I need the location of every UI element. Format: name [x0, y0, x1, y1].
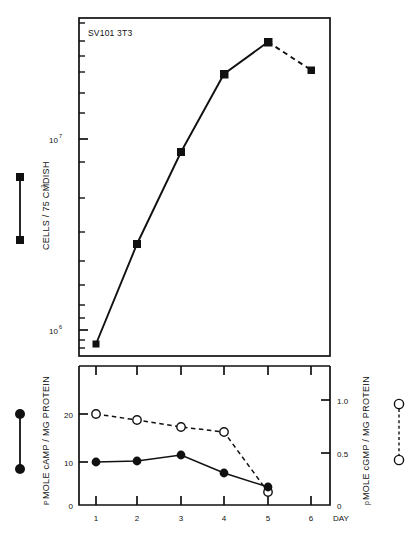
camp-point-day3: [177, 451, 186, 460]
growth-curve-solid: [96, 42, 268, 344]
nucleotide-left-axis-title-prefix: P: [43, 500, 50, 505]
nucleotide-x-tick-labels: 1 2 3 4 5 6 DAY: [94, 514, 350, 523]
growth-y-tick-label-1e6: 10: [49, 327, 58, 336]
camp-curve: [96, 455, 268, 487]
growth-panel-title: SV101 3T3: [88, 28, 132, 38]
cells-legend-marker-bottom: [16, 236, 24, 244]
camp-legend: [15, 409, 25, 474]
growth-panel-frame: [79, 18, 330, 356]
cells-legend: [16, 173, 24, 244]
nucleotide-x-ticks: [96, 366, 311, 505]
growth-y-tick-exponent-6: 6: [59, 324, 62, 330]
cells-legend-marker-top: [16, 173, 24, 181]
growth-y-major-ticks: [79, 139, 88, 330]
cgmp-point-day1: [92, 410, 100, 418]
camp-point-day5: [264, 483, 273, 492]
nucleotide-left-axis-title-group: P MOLE cAMP / MG PROTEIN: [41, 376, 51, 505]
nucleotide-panel-frame: [79, 366, 330, 505]
nucleotide-left-axis-title: MOLE cAMP / MG PROTEIN: [41, 376, 51, 499]
growth-y-tick-labels: 10 7 10 6: [49, 133, 62, 336]
nucleotide-left-tick-label-20: 20: [64, 411, 73, 420]
growth-curve-dashed: [268, 42, 311, 70]
growth-y-axis-title-tail: DISH: [41, 161, 51, 184]
nucleotide-left-tick-label-10: 10: [64, 459, 73, 468]
growth-y-tick-label-1e7: 10: [49, 136, 58, 145]
cgmp-point-day3: [177, 423, 185, 431]
x-tick-label-4: 4: [222, 514, 227, 523]
nucleotide-left-tick-labels: 20 10 0: [64, 411, 73, 511]
nucleotide-panel: 20 10 0 P MOLE cAMP / MG PROTEIN 1.0 0.5…: [15, 366, 404, 523]
cgmp-legend: [394, 399, 403, 464]
growth-point-day5: [264, 38, 273, 47]
growth-y-tick-exponent-7: 7: [59, 133, 62, 139]
camp-point-day1: [92, 458, 101, 467]
growth-data-markers: [93, 38, 316, 348]
growth-y-axis-title-superscript: 2: [40, 185, 46, 188]
x-tick-label-5: 5: [266, 514, 271, 523]
nucleotide-right-tick-label-1: 1.0: [337, 397, 349, 406]
growth-y-axis-title-group: CELLS / 75 CM 2 DISH: [40, 161, 51, 250]
cgmp-legend-marker-top: [394, 399, 403, 408]
nucleotide-right-axis-title-group: p MOLE cGMP / MG PROTEIN: [361, 376, 371, 505]
x-tick-label-3: 3: [179, 514, 184, 523]
nucleotide-left-tick-label-0: 0: [69, 502, 74, 511]
cgmp-legend-marker-bottom: [394, 455, 403, 464]
camp-point-day2: [133, 457, 142, 466]
nucleotide-right-tick-label-0: 0: [337, 502, 342, 511]
camp-legend-marker-top: [15, 409, 25, 419]
growth-point-day3: [177, 148, 185, 156]
figure-svg: SV101 3T3 10 7 10: [0, 0, 418, 540]
cgmp-point-day2: [133, 416, 141, 424]
x-tick-label-1: 1: [94, 514, 99, 523]
growth-point-day1: [93, 341, 100, 348]
nucleotide-right-axis-title-prefix: p: [363, 501, 371, 505]
growth-y-axis-title: CELLS / 75 CM: [41, 184, 51, 250]
nucleotide-right-tick-label-05: 0.5: [337, 450, 349, 459]
growth-panel: SV101 3T3 10 7 10: [16, 18, 330, 356]
camp-legend-marker-bottom: [15, 464, 25, 474]
camp-point-day4: [220, 469, 229, 478]
x-axis-label: DAY: [333, 514, 350, 523]
nucleotide-left-ticks: [79, 414, 88, 462]
growth-point-day2: [133, 240, 141, 248]
x-tick-label-2: 2: [135, 514, 140, 523]
growth-point-day4: [220, 70, 229, 79]
figure-container: SV101 3T3 10 7 10: [0, 0, 418, 540]
camp-data-markers: [92, 451, 273, 492]
growth-point-day6: [308, 67, 316, 75]
cgmp-point-day4: [220, 428, 228, 436]
x-tick-label-6: 6: [309, 514, 314, 523]
nucleotide-right-axis-title: MOLE cGMP / MG PROTEIN: [361, 376, 371, 500]
nucleotide-right-ticks: [321, 400, 330, 453]
nucleotide-right-tick-labels: 1.0 0.5 0: [337, 397, 349, 511]
growth-y-minor-ticks: [79, 23, 85, 348]
